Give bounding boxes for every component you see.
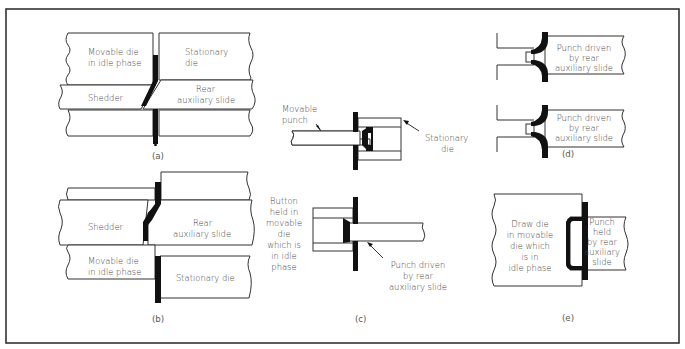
label-c-movable-punch-2: punch [282, 115, 308, 125]
label-c-punch-driven-2: by rear [403, 271, 433, 281]
label-c-button-3: movable [266, 218, 302, 228]
label-a-rear-slide-2: auxiliary slide [177, 95, 235, 105]
label-a-movable-die-2: in idle phase [88, 58, 141, 68]
label-c-button-4: die [278, 229, 291, 239]
label-d-bottom-1: Punch driven [557, 113, 612, 123]
label-e-punch-5: slide [592, 257, 612, 267]
panel-c: Movable punch Stationary die Button held… [266, 104, 468, 324]
label-c-button-6: in idle [271, 251, 296, 261]
label-d-top-1: Punch driven [557, 43, 612, 53]
label-a-stationary-die-2: die [185, 58, 198, 68]
label-d-bottom-3: auxiliary slide [555, 133, 613, 143]
label-a-shedder: Shedder [88, 93, 124, 103]
figure-canvas: Movable die in idle phase Stationary die… [0, 0, 685, 349]
label-e-draw-die-1: Draw die [511, 219, 548, 229]
label-b-shedder: Shedder [88, 222, 124, 232]
label-b-rear-slide-2: auxiliary slide [173, 229, 231, 239]
caption-c: (c) [355, 314, 366, 324]
caption-a: (a) [152, 151, 164, 161]
label-a-rear-slide: Rear [196, 84, 216, 94]
label-c-stationary-die: Stationary [425, 133, 468, 143]
label-e-draw-die-5: idle phase [508, 263, 551, 273]
panel-d: Punch driven by rear auxiliary slide Pun… [497, 32, 625, 159]
label-c-punch-driven-1: Punch driven [391, 260, 446, 270]
label-a-movable-die: Movable die [88, 47, 139, 57]
label-a-stationary-die: Stationary [185, 47, 228, 57]
label-c-button-7: phase [271, 262, 296, 272]
panel-e: Draw die in movable die which is in idle… [492, 194, 628, 323]
label-c-movable-punch: Movable [282, 104, 317, 114]
label-d-bottom-2: by rear [569, 123, 599, 133]
label-d-top-3: auxiliary slide [555, 63, 613, 73]
label-b-movable-die: Movable die [88, 256, 139, 266]
label-e-punch-3: by rear [587, 237, 617, 247]
label-d-top-2: by rear [569, 53, 599, 63]
label-e-draw-die-2: in movable [507, 230, 553, 240]
panel-a: Movable die in idle phase Stationary die… [59, 33, 255, 161]
label-c-button-5: which is [267, 240, 301, 250]
label-e-draw-die-4: is in [522, 252, 539, 262]
label-c-button-2: held in [270, 207, 298, 217]
label-e-punch-2: held [593, 227, 611, 237]
label-b-stationary-die: Stationary die [176, 273, 235, 283]
label-e-draw-die-3: die which [510, 241, 550, 251]
label-c-stationary-die-2: die [441, 144, 454, 154]
caption-d: (d) [562, 149, 574, 159]
label-b-movable-die-2: in idle phase [88, 267, 141, 277]
label-c-punch-driven-3: auxiliary slide [389, 282, 447, 292]
caption-b: (b) [152, 314, 164, 324]
label-e-punch-4: auxiliary [584, 247, 620, 257]
label-b-rear-slide: Rear [193, 218, 213, 228]
label-c-button-1: Button [270, 196, 298, 206]
caption-e: (e) [562, 313, 574, 323]
panel-b: Shedder Rear auxiliary slide Movable die… [59, 172, 255, 324]
label-e-punch-1: Punch [589, 217, 614, 227]
